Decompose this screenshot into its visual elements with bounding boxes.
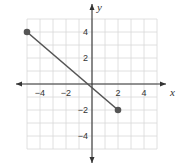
x-axis-arrow-left-icon xyxy=(16,82,22,87)
x-tick-label: 2 xyxy=(115,88,120,98)
x-tick-label: −4 xyxy=(35,88,45,98)
y-tick-label: 4 xyxy=(83,27,88,37)
y-axis-arrow-down-icon xyxy=(90,157,95,163)
endpoint-dot xyxy=(115,107,122,114)
y-tick-label: −2 xyxy=(78,105,88,115)
y-axis-label: y xyxy=(96,1,102,13)
x-axis-label: x xyxy=(169,86,175,98)
endpoint-dot xyxy=(24,29,31,36)
x-tick-label: 4 xyxy=(141,88,146,98)
x-axis-arrow-right-icon xyxy=(160,82,166,87)
y-tick-label: −4 xyxy=(78,131,88,141)
x-tick-label: −2 xyxy=(61,88,71,98)
y-axis-arrow-up-icon xyxy=(90,4,95,10)
coordinate-plane: −4−22442−2−4xy xyxy=(0,0,180,167)
y-tick-label: 2 xyxy=(83,53,88,63)
